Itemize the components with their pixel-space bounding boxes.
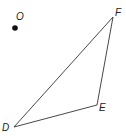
label-o: O [16, 11, 24, 22]
label-d: D [2, 122, 9, 133]
geometry-diagram: O D E F [0, 0, 126, 136]
label-f: F [115, 7, 122, 18]
point-o [12, 25, 18, 31]
label-e: E [99, 102, 106, 113]
